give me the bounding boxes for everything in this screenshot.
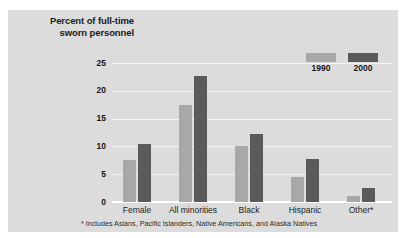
chart-axis-title-line-2: sworn personnel	[14, 27, 134, 39]
y-axis-tick-label-5: 5	[60, 170, 106, 179]
x-axis-tick-label-allminorities: All minorities	[165, 205, 221, 215]
bar-female-2000	[138, 144, 151, 202]
bar-black-2000	[250, 134, 263, 202]
bar-hispanic-1990	[291, 177, 304, 202]
legend-label-1990: 1990	[306, 63, 336, 73]
y-axis-tick-label-20: 20	[60, 86, 106, 95]
bar-allminorities-1990	[179, 105, 192, 202]
x-axis-tick-label-other: Other*	[333, 205, 389, 215]
y-axis-tick-label-0: 0	[60, 198, 106, 207]
chart-axis-title: Percent of full-time sworn personnel	[14, 15, 134, 38]
y-axis-tick-label-15: 15	[60, 114, 106, 123]
chart-legend: 1990 2000	[306, 53, 380, 79]
bar-other-2000	[362, 188, 375, 202]
y-axis-tick-label-10: 10	[60, 142, 106, 151]
bar-female-1990	[123, 160, 136, 202]
legend-entry-1990: 1990	[306, 53, 336, 73]
x-axis-tick-label-black: Black	[221, 205, 277, 215]
chart-footnote: * Includes Asians, Pacific Islanders, Na…	[0, 219, 398, 228]
bar-other-1990	[347, 196, 360, 202]
legend-swatch-1990	[306, 53, 336, 62]
x-axis-tick-label-hispanic: Hispanic	[277, 205, 333, 215]
bar-allminorities-2000	[194, 76, 207, 202]
chart-axis-title-line-1: Percent of full-time	[14, 15, 134, 27]
legend-swatch-2000	[348, 53, 378, 62]
gridline-20	[112, 91, 392, 92]
bar-hispanic-2000	[306, 159, 319, 202]
legend-entry-2000: 2000	[348, 53, 378, 73]
bar-black-1990	[235, 146, 248, 202]
x-axis-tick-label-female: Female	[109, 205, 165, 215]
gridline-15	[112, 119, 392, 120]
y-axis-tick-label-25: 25	[60, 59, 106, 68]
legend-label-2000: 2000	[348, 63, 378, 73]
chart-figure: Percent of full-time sworn personnel 199…	[0, 0, 406, 238]
